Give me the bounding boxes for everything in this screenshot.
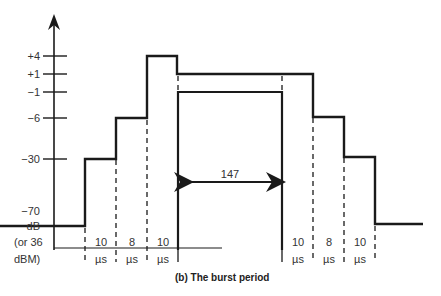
unit-label-alt-1: (or 36 (14, 236, 43, 248)
interval-right-3-value: 10 (345, 236, 375, 248)
y-axis-ticks (43, 56, 67, 226)
tick-label-minus1: −1 (14, 86, 40, 98)
tick-label-plus1: +1 (14, 68, 40, 80)
figure-caption: (b) The burst period (175, 272, 269, 283)
interval-right-3-unit: µs (345, 253, 375, 265)
interval-left-2-value: 8 (117, 236, 147, 248)
interval-right-1-unit: µs (283, 253, 313, 265)
interval-right-1-value: 10 (283, 236, 313, 248)
interval-left-3-unit: µs (148, 253, 178, 265)
unit-label-db: dB (4, 220, 40, 232)
interval-right-2-value: 8 (314, 236, 344, 248)
interval-left-3-value: 10 (148, 236, 178, 248)
tick-label-minus6: −6 (14, 112, 40, 124)
interval-right-2-unit: µs (314, 253, 344, 265)
interval-left-1-value: 10 (86, 236, 116, 248)
tick-label-plus4: +4 (14, 50, 40, 62)
tick-label-minus70: −70 (4, 205, 40, 217)
tick-label-minus30: −30 (10, 153, 40, 165)
interval-left-2-unit: µs (117, 253, 147, 265)
upper-mask-envelope (0, 56, 423, 226)
interval-left-1-unit: µs (86, 253, 116, 265)
burst-mask-diagram (0, 0, 441, 296)
burst-duration-label: 147 (210, 168, 250, 180)
unit-label-alt-2: dBM) (14, 253, 40, 265)
